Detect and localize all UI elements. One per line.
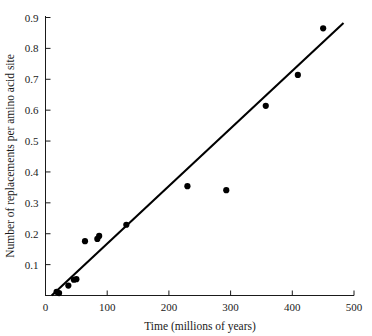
y-tick-label: 0.3	[25, 197, 39, 209]
y-axis-ticks: 0.10.20.30.40.50.60.70.80.9	[25, 12, 51, 271]
y-tick-label: 0.8	[25, 42, 39, 54]
x-tick-label: 200	[161, 301, 178, 313]
x-tick-label: 100	[99, 301, 116, 313]
scatter-plot-figure: 0.10.20.30.40.50.60.70.80.9 010020030040…	[0, 0, 372, 336]
data-point	[263, 103, 269, 109]
plot-canvas: 0.10.20.30.40.50.60.70.80.9 010020030040…	[0, 0, 372, 336]
y-tick-label: 0.1	[25, 259, 39, 271]
data-point	[65, 283, 71, 289]
regression-line	[52, 23, 344, 295]
data-point	[223, 187, 229, 193]
data-point	[56, 290, 62, 296]
x-tick-label: 300	[222, 301, 239, 313]
x-tick-label: 400	[284, 301, 301, 313]
data-point	[73, 276, 79, 282]
y-tick-label: 0.9	[25, 12, 39, 24]
data-point	[320, 25, 326, 31]
data-point	[96, 233, 102, 239]
data-point	[123, 222, 129, 228]
x-tick-label: 500	[346, 301, 363, 313]
data-point	[82, 238, 88, 244]
data-point	[295, 72, 301, 78]
y-axis-title: Number of replacements per amino acid si…	[4, 54, 17, 258]
x-axis-title: Time (millions of years)	[144, 320, 256, 333]
data-point	[184, 183, 190, 189]
y-tick-label: 0.2	[25, 228, 39, 240]
y-tick-label: 0.4	[25, 166, 39, 178]
y-tick-label: 0.7	[25, 73, 39, 85]
x-axis-ticks: 0100200300400500	[43, 291, 363, 313]
x-tick-label: 0	[43, 301, 49, 313]
y-tick-label: 0.5	[25, 135, 39, 147]
fit-line	[52, 23, 344, 295]
y-tick-label: 0.6	[25, 104, 39, 116]
